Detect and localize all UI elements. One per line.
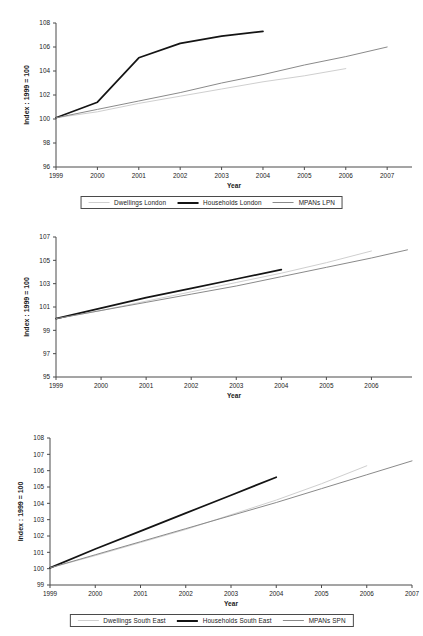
x-tick-label: 2002 xyxy=(173,172,188,179)
y-tick-label: 99 xyxy=(37,581,45,588)
series-line xyxy=(56,69,346,118)
y-tick-label: 103 xyxy=(33,516,44,523)
legend-line-icon-households xyxy=(177,202,198,204)
x-tick-label: 2001 xyxy=(133,590,148,597)
y-tick-label: 100 xyxy=(39,115,50,122)
chart-london: 9698100102104106108199920002001200220032… xyxy=(0,0,423,215)
x-tick-label: 2000 xyxy=(90,172,105,179)
series-line xyxy=(50,466,367,568)
legend-label-mpans: MPANs LPN xyxy=(299,199,335,206)
x-axis-title: Year xyxy=(227,182,241,189)
legend-item-households[interactable]: Households London xyxy=(177,199,262,206)
chart-svg-east: 9910010110210310410510610710819992000200… xyxy=(0,425,423,625)
chart-svg-london: 9698100102104106108199920002001200220032… xyxy=(0,0,423,196)
legend-line-icon-dwellings xyxy=(88,202,109,203)
y-tick-label: 102 xyxy=(33,532,44,539)
y-tick-label: 104 xyxy=(33,500,44,507)
series-line xyxy=(50,477,276,568)
y-tick-label: 104 xyxy=(39,67,50,74)
y-tick-label: 98 xyxy=(43,139,51,146)
x-tick-label: 2005 xyxy=(314,590,329,597)
x-tick-label: 2004 xyxy=(256,172,271,179)
legend-item-dwellings[interactable]: Dwellings London xyxy=(88,199,166,206)
legend-label-dwellings: Dwellings London xyxy=(114,199,166,206)
y-axis-title: Index : 1999 = 100 xyxy=(17,482,24,542)
series-line xyxy=(56,47,387,118)
x-axis-title: Year xyxy=(227,392,241,399)
y-axis-title: Index : 1999 = 100 xyxy=(23,277,30,337)
y-tick-label: 96 xyxy=(43,163,51,170)
x-tick-label: 2004 xyxy=(274,382,289,389)
x-tick-label: 2006 xyxy=(339,172,354,179)
y-tick-label: 105 xyxy=(39,257,50,264)
x-tick-label: 2005 xyxy=(319,382,334,389)
legend-label-households: Households London xyxy=(203,199,262,206)
x-tick-label: 2003 xyxy=(224,590,239,597)
legend-london: Dwellings London Households London MPANs… xyxy=(80,196,343,209)
x-tick-label: 2001 xyxy=(132,172,147,179)
chart-south-east: 9597991011031051071999200020012002200320… xyxy=(0,215,423,425)
figure-root: 9698100102104106108199920002001200220032… xyxy=(0,0,423,636)
x-tick-label: 1999 xyxy=(43,590,58,597)
x-tick-label: 2004 xyxy=(269,590,284,597)
series-line xyxy=(56,250,407,319)
y-tick-label: 102 xyxy=(39,91,50,98)
y-tick-label: 100 xyxy=(33,565,44,572)
x-tick-label: 2000 xyxy=(88,590,103,597)
y-tick-label: 107 xyxy=(39,233,50,240)
x-tick-label: 2000 xyxy=(94,382,109,389)
series-line xyxy=(56,251,371,319)
y-tick-label: 103 xyxy=(39,280,50,287)
y-tick-label: 97 xyxy=(43,350,51,357)
y-axis-title: Index : 1999 = 100 xyxy=(23,65,30,125)
x-tick-label: 2003 xyxy=(229,382,244,389)
y-tick-label: 99 xyxy=(43,327,51,334)
chart-east: 9910010110210310410510610710819992000200… xyxy=(0,425,423,636)
x-tick-label: 2001 xyxy=(139,382,154,389)
x-axis-title: Year xyxy=(224,600,238,607)
x-tick-label: 2005 xyxy=(297,172,312,179)
y-tick-label: 101 xyxy=(33,549,44,556)
y-tick-label: 108 xyxy=(33,434,44,441)
y-tick-label: 108 xyxy=(39,19,50,26)
x-tick-label: 2006 xyxy=(364,382,379,389)
plot-area-east: 9910010110210310410510610710819992000200… xyxy=(0,425,423,625)
x-tick-label: 2002 xyxy=(179,590,194,597)
y-tick-label: 106 xyxy=(39,43,50,50)
y-tick-label: 106 xyxy=(33,467,44,474)
series-line xyxy=(56,31,263,117)
x-tick-label: 2007 xyxy=(380,172,395,179)
plot-area-south-east: 9597991011031051071999200020012002200320… xyxy=(0,215,423,407)
x-tick-label: 2007 xyxy=(405,590,420,597)
y-tick-label: 101 xyxy=(39,303,50,310)
legend-item-mpans[interactable]: MPANs LPN xyxy=(273,199,335,206)
x-tick-label: 1999 xyxy=(49,382,64,389)
series-line xyxy=(56,270,281,319)
x-tick-label: 2002 xyxy=(184,382,199,389)
y-tick-label: 95 xyxy=(43,373,51,380)
x-tick-label: 1999 xyxy=(49,172,64,179)
y-tick-label: 107 xyxy=(33,451,44,458)
plot-area-london: 9698100102104106108199920002001200220032… xyxy=(0,0,423,196)
y-tick-label: 105 xyxy=(33,483,44,490)
x-tick-label: 2006 xyxy=(360,590,375,597)
chart-svg-south-east: 9597991011031051071999200020012002200320… xyxy=(0,215,423,407)
legend-line-icon-mpans xyxy=(273,202,294,203)
x-tick-label: 2003 xyxy=(214,172,229,179)
